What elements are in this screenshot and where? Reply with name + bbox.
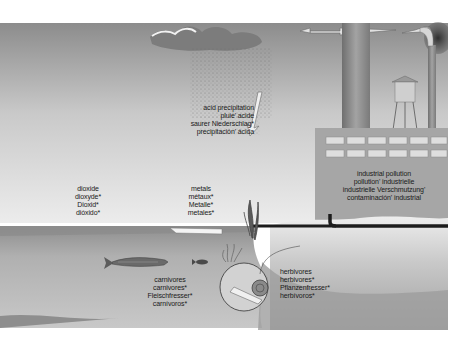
smokestack-thin bbox=[428, 45, 436, 133]
discharge-arrow-icon bbox=[170, 228, 222, 234]
label-acid-precipitation: acid precipitation pluie' acide saurer N… bbox=[170, 104, 254, 136]
label-herbivores: herbivores herbivores* Pflanzenfresser* … bbox=[280, 268, 350, 300]
label-dioxide: dioxide dioxyde* Dioxid* dióxido* bbox=[60, 185, 116, 217]
label-metals: metals métaux* Metalle* metales* bbox=[176, 185, 226, 217]
label-industrial-pollution: industrial pollution pollution' industri… bbox=[332, 170, 436, 202]
smokestack bbox=[342, 23, 370, 133]
label-carnivores: carnivores carnivores* Fleischfresser* c… bbox=[140, 276, 200, 308]
snail-icon bbox=[252, 280, 268, 296]
